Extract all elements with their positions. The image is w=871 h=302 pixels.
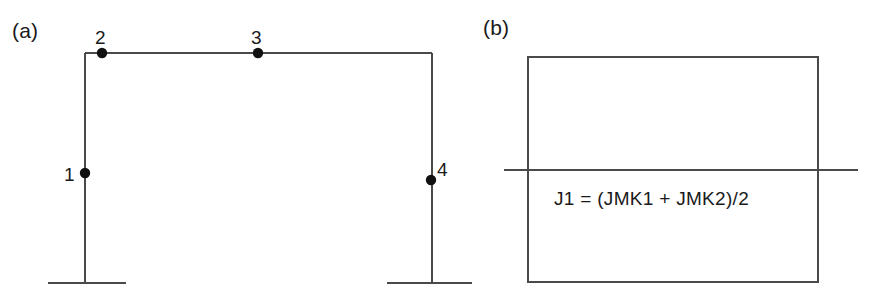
node-label-1: 1 — [64, 165, 75, 184]
panel-a: (a) 1234 — [0, 0, 470, 302]
node-label-2: 2 — [95, 28, 106, 47]
node-label-4: 4 — [437, 160, 448, 179]
frame-members — [85, 53, 432, 283]
node-marker-1 — [80, 168, 90, 178]
node-marker-2 — [97, 48, 107, 58]
panel-b: (b) J1 = (JMK1 + JMK2)/2 — [470, 0, 871, 302]
node-label-3: 3 — [251, 28, 262, 47]
figure-root: (a) 1234 (b) J1 = (JMK1 + JMK2)/2 — [0, 0, 871, 302]
panel-a-drawing — [0, 0, 470, 302]
panel-b-drawing — [470, 0, 871, 302]
joint-average-formula: J1 = (JMK1 + JMK2)/2 — [554, 189, 749, 208]
node-marker-4 — [426, 175, 436, 185]
node-marker-3 — [253, 48, 263, 58]
frame-nodes — [80, 48, 436, 185]
